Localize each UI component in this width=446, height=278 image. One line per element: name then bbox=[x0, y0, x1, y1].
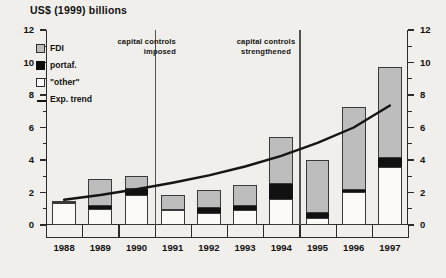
y-axis-label-left-4: 4 bbox=[0, 155, 34, 165]
x-tick-0 bbox=[46, 225, 47, 238]
y-axis-label-right-6: 6 bbox=[420, 123, 446, 133]
y-axis-label-left-8: 8 bbox=[0, 90, 34, 100]
x-axis-label-1997: 1997 bbox=[367, 242, 413, 253]
plot-area: 024681012 024681012 19881989199019911992… bbox=[46, 30, 408, 225]
x-tick-7 bbox=[299, 225, 300, 238]
x-tick-8 bbox=[336, 225, 337, 238]
annotation-capital-controls-strengthened: capital controls strengthened bbox=[216, 37, 316, 56]
y-tick-r-5 bbox=[408, 143, 412, 144]
x-tick-1 bbox=[82, 225, 83, 238]
y-axis-label-left-2: 2 bbox=[0, 188, 34, 198]
y-tick-r-8 bbox=[408, 94, 414, 95]
y-tick-r-6 bbox=[408, 127, 414, 128]
y-axis-label-left-6: 6 bbox=[0, 123, 34, 133]
y-tick-r-7 bbox=[408, 111, 412, 112]
chart-title: US$ (1999) billions bbox=[30, 4, 127, 16]
annotation-imposed-line2: imposed bbox=[144, 47, 176, 56]
y-tick-r-1 bbox=[408, 208, 412, 209]
legend-label-portaf: portaf. bbox=[50, 60, 77, 70]
legend-label-fdi: FDI bbox=[50, 43, 64, 53]
y-tick-r-9 bbox=[408, 78, 412, 79]
x-tick-2 bbox=[118, 225, 119, 238]
legend-label-trend: Exp. trend bbox=[50, 94, 92, 104]
y-tick-r-11 bbox=[408, 46, 412, 47]
x-tick-4 bbox=[191, 225, 192, 238]
x-tick-3 bbox=[155, 225, 156, 238]
legend-swatch-icon-portaf bbox=[36, 61, 45, 70]
legend-swatch-icon-other bbox=[36, 78, 45, 87]
x-tick-9 bbox=[372, 225, 373, 238]
y-tick-r-2 bbox=[408, 192, 414, 193]
legend-label-other: "other" bbox=[50, 77, 80, 87]
x-tick-6 bbox=[263, 225, 264, 238]
annotation-strengthened-line1: capital controls bbox=[237, 37, 296, 46]
y-axis-label-right-12: 12 bbox=[420, 25, 446, 35]
y-axis-label-left-0: 0 bbox=[0, 220, 34, 230]
y-axis-label-left-10: 10 bbox=[0, 58, 34, 68]
y-tick-r-3 bbox=[408, 176, 412, 177]
y-axis-label-right-4: 4 bbox=[420, 155, 446, 165]
y-axis-label-right-2: 2 bbox=[420, 188, 446, 198]
annotation-imposed-line1: capital controls bbox=[117, 37, 176, 46]
y-axis-label-left-12: 12 bbox=[0, 25, 34, 35]
y-tick-r-10 bbox=[408, 62, 414, 63]
exp-trend-line bbox=[46, 30, 408, 225]
y-axis-label-right-10: 10 bbox=[420, 58, 446, 68]
y-axis-label-right-0: 0 bbox=[420, 220, 446, 230]
y-tick-r-12 bbox=[408, 29, 414, 30]
x-tick-10 bbox=[408, 225, 409, 238]
legend-swatch-icon-fdi bbox=[36, 44, 45, 53]
annotation-capital-controls-imposed: capital controls imposed bbox=[92, 37, 176, 56]
chart-root: US$ (1999) billions 024681012 024681012 … bbox=[0, 0, 446, 278]
annotation-strengthened-line2: strengthened bbox=[241, 47, 291, 56]
y-axis-label-right-8: 8 bbox=[420, 90, 446, 100]
legend-line-icon-trend bbox=[37, 100, 46, 102]
y-tick-r-4 bbox=[408, 159, 414, 160]
x-tick-5 bbox=[227, 225, 228, 238]
